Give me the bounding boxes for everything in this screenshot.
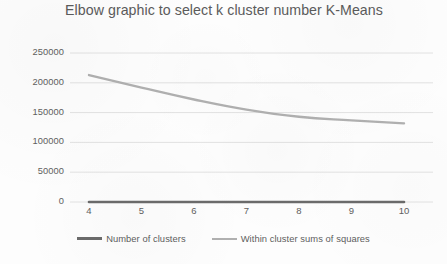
legend-swatch-icon (77, 237, 102, 240)
x-tick-label: 6 (179, 205, 209, 216)
legend-item[interactable]: Number of clusters (77, 233, 186, 244)
chart-container: Elbow graphic to select k cluster number… (0, 0, 447, 264)
legend-item[interactable]: Within cluster sums of squares (212, 233, 370, 244)
x-tick-label: 9 (337, 205, 367, 216)
legend-label: Within cluster sums of squares (241, 233, 370, 244)
legend-label: Number of clusters (106, 233, 186, 244)
chart-legend: Number of clustersWithin cluster sums of… (0, 233, 447, 244)
x-axis-tick-labels: 45678910 (0, 0, 447, 264)
legend-swatch-icon (212, 238, 237, 240)
x-tick-label: 5 (127, 205, 157, 216)
x-tick-label: 7 (232, 205, 262, 216)
x-tick-label: 8 (284, 205, 314, 216)
x-tick-label: 10 (389, 205, 419, 216)
x-tick-label: 4 (74, 205, 104, 216)
